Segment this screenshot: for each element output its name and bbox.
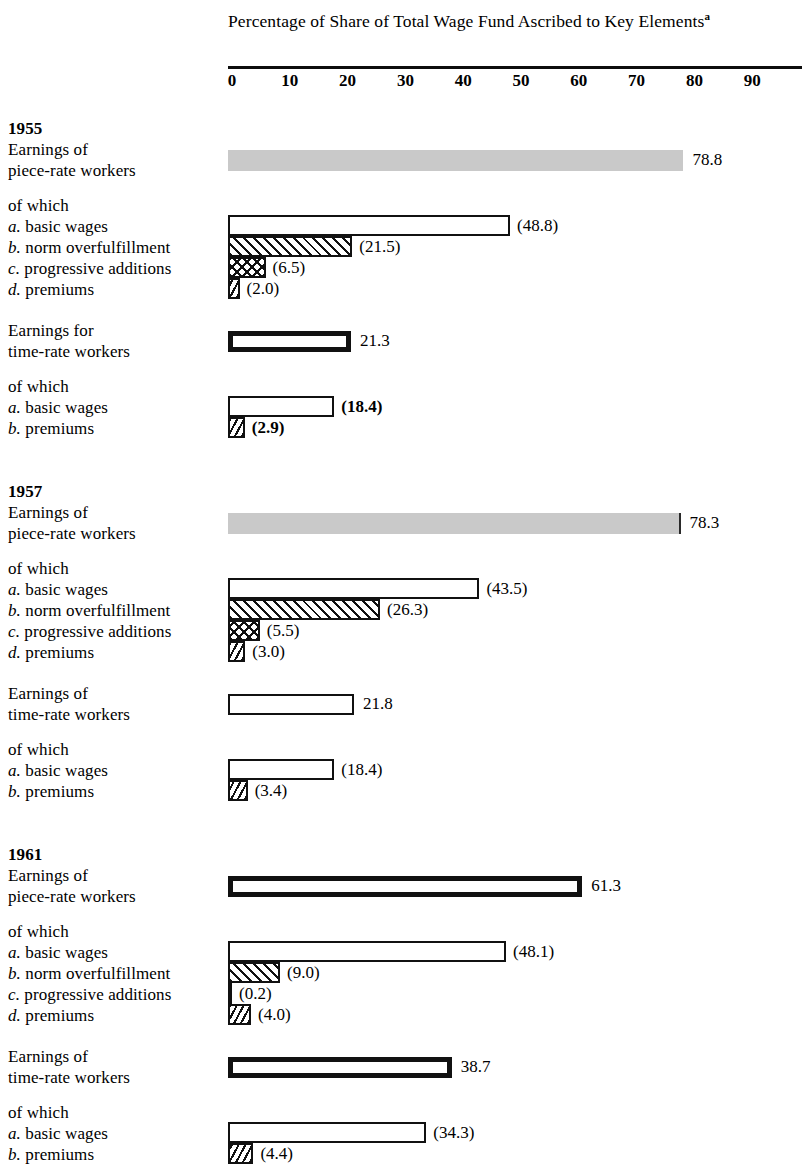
of-which-label: of which (8, 376, 69, 397)
section-year-1961: 1961 (8, 844, 42, 865)
component-bar-1957-1-b (228, 780, 248, 801)
component-label: c. progressive additions (8, 621, 171, 642)
group-label-line: piece-rate workers (8, 523, 136, 544)
group-label-line: Earnings for (8, 320, 94, 341)
component-bar-value: (5.5) (267, 620, 300, 641)
component-bar-value: (4.0) (258, 1004, 291, 1025)
of-which-label: of which (8, 739, 69, 760)
component-label: d. premiums (8, 1005, 94, 1026)
component-name: basic wages (21, 761, 108, 780)
component-name: norm overfulfillment (21, 964, 170, 983)
component-prefix: d. (8, 280, 21, 299)
component-prefix: b. (8, 782, 21, 801)
component-bar-1955-0-c (228, 257, 266, 278)
component-label: b. premiums (8, 418, 94, 439)
component-bar-value: (2.9) (252, 417, 285, 438)
component-bar-value: (48.1) (513, 941, 554, 962)
component-label: a. basic wages (8, 1123, 108, 1144)
group-label-line: Earnings of (8, 683, 88, 704)
component-prefix: a. (8, 943, 21, 962)
component-bar-1955-1-a (228, 396, 334, 417)
component-label: a. basic wages (8, 216, 108, 237)
component-bar-1961-0-d (228, 1004, 251, 1025)
component-bar-value: (34.3) (433, 1122, 474, 1143)
component-bar-value: (48.8) (517, 215, 558, 236)
component-name: basic wages (21, 1124, 108, 1143)
component-bar-value: (18.4) (341, 759, 382, 780)
component-name: basic wages (21, 217, 108, 236)
component-prefix: b. (8, 964, 21, 983)
total-bar-value: 21.8 (363, 693, 393, 714)
component-name: progressive additions (20, 259, 171, 278)
component-name: premiums (21, 782, 94, 801)
component-bar-value: (43.5) (486, 578, 527, 599)
total-bar-value: 78.3 (690, 512, 720, 533)
component-name: premiums (21, 1145, 94, 1164)
component-prefix: c. (8, 985, 20, 1004)
chart-plot-area: 1955Earnings ofpiece-rate workers78.8of … (0, 0, 802, 1168)
component-prefix: c. (8, 622, 20, 641)
group-label-line: time-rate workers (8, 341, 130, 362)
group-label-line: Earnings of (8, 1046, 88, 1067)
component-prefix: c. (8, 259, 20, 278)
total-bar-value: 38.7 (461, 1056, 491, 1077)
component-bar-1957-0-c (228, 620, 260, 641)
total-bar-1961-1 (228, 1057, 452, 1078)
component-label: b. norm overfulfillment (8, 237, 170, 258)
component-bar-1955-0-a (228, 215, 510, 236)
component-prefix: a. (8, 761, 21, 780)
component-bar-value: (6.5) (273, 257, 306, 278)
component-name: premiums (21, 1006, 94, 1025)
component-bar-1955-0-b (228, 236, 352, 257)
component-label: b. premiums (8, 781, 94, 802)
component-bar-value: (0.2) (239, 983, 272, 1004)
total-bar-1961-0 (228, 876, 582, 897)
component-name: basic wages (21, 943, 108, 962)
component-prefix: a. (8, 580, 21, 599)
group-label-line: piece-rate workers (8, 160, 136, 181)
component-bar-1955-0-d (228, 278, 240, 299)
component-name: progressive additions (20, 622, 171, 641)
component-bar-1961-1-b (228, 1143, 253, 1164)
of-which-label: of which (8, 921, 69, 942)
component-label: d. premiums (8, 279, 94, 300)
component-prefix: d. (8, 1006, 21, 1025)
component-bar-1961-1-a (228, 1122, 426, 1143)
component-prefix: b. (8, 1145, 21, 1164)
component-label: c. progressive additions (8, 258, 171, 279)
component-label: b. norm overfulfillment (8, 600, 170, 621)
group-label-line: Earnings of (8, 502, 88, 523)
total-bar-value: 61.3 (591, 875, 621, 896)
component-name: norm overfulfillment (21, 238, 170, 257)
component-label: d. premiums (8, 642, 94, 663)
component-prefix: b. (8, 238, 21, 257)
of-which-label: of which (8, 558, 69, 579)
component-bar-value: (26.3) (387, 599, 428, 620)
total-bar-1955-1 (228, 331, 351, 352)
component-name: basic wages (21, 398, 108, 417)
total-bar-1957-0 (228, 513, 681, 534)
component-label: a. basic wages (8, 760, 108, 781)
component-prefix: a. (8, 217, 21, 236)
component-prefix: a. (8, 1124, 21, 1143)
group-label-line: time-rate workers (8, 1067, 130, 1088)
component-label: b. norm overfulfillment (8, 963, 170, 984)
component-name: basic wages (21, 580, 108, 599)
section-year-1955: 1955 (8, 118, 42, 139)
component-bar-value: (3.4) (255, 780, 288, 801)
component-label: a. basic wages (8, 397, 108, 418)
component-name: premiums (21, 280, 94, 299)
component-bar-value: (18.4) (341, 396, 382, 417)
component-name: premiums (21, 419, 94, 438)
component-bar-value: (3.0) (252, 641, 285, 662)
total-bar-value: 78.8 (692, 149, 722, 170)
total-bar-value: 21.3 (360, 330, 390, 351)
of-which-label: of which (8, 1102, 69, 1123)
component-bar-1961-0-b (228, 962, 280, 983)
component-prefix: b. (8, 601, 21, 620)
component-bar-value: (4.4) (260, 1143, 293, 1164)
total-bar-1957-1 (228, 694, 354, 715)
component-prefix: d. (8, 643, 21, 662)
component-name: premiums (21, 643, 94, 662)
group-label-line: piece-rate workers (8, 886, 136, 907)
